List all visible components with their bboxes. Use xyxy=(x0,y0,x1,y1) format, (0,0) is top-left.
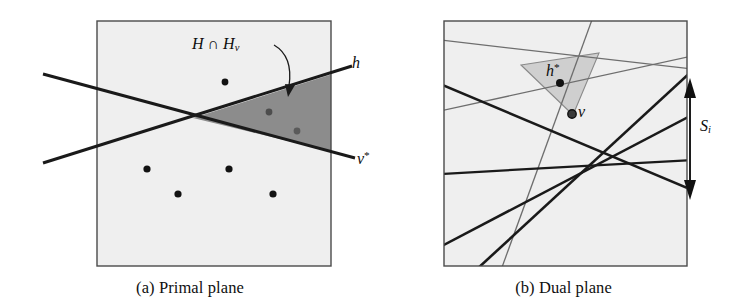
point-primal xyxy=(174,190,181,197)
point-primal xyxy=(294,128,301,135)
label-point-v: v xyxy=(578,104,585,120)
panel-primal-plane: (a) Primal plane xyxy=(0,0,380,308)
label-S-base: S xyxy=(700,117,708,134)
point-primal xyxy=(225,165,232,172)
label-line-v-dual: v* xyxy=(357,150,370,167)
point-primal xyxy=(222,79,229,86)
label-S-subscript: i xyxy=(708,124,711,135)
caption-dual-plane: (b) Dual plane xyxy=(380,278,747,298)
label-slab-extent: Si xyxy=(700,118,711,136)
label-H-subscript: v xyxy=(235,42,240,53)
label-intersection-region: H ∩ Hv xyxy=(192,36,239,54)
label-v-star: * xyxy=(364,149,370,161)
caption-primal-plane: (a) Primal plane xyxy=(0,278,380,298)
point-v xyxy=(568,110,576,118)
label-point-h-dual: h* xyxy=(546,62,560,79)
figure-root: (a) Primal plane xyxy=(0,0,747,308)
label-h-star: * xyxy=(554,61,560,73)
point-primal xyxy=(269,190,276,197)
label-line-h: h xyxy=(352,55,360,71)
point-primal xyxy=(143,165,150,172)
point-h-dual xyxy=(556,79,564,87)
label-h-base: h xyxy=(546,62,554,79)
label-H-left: H ∩ H xyxy=(192,35,235,52)
point-primal xyxy=(266,109,273,116)
dual-plane-canvas xyxy=(380,0,747,308)
panel-dual-plane: (b) Dual plane xyxy=(380,0,747,308)
primal-plane-canvas xyxy=(0,0,380,308)
